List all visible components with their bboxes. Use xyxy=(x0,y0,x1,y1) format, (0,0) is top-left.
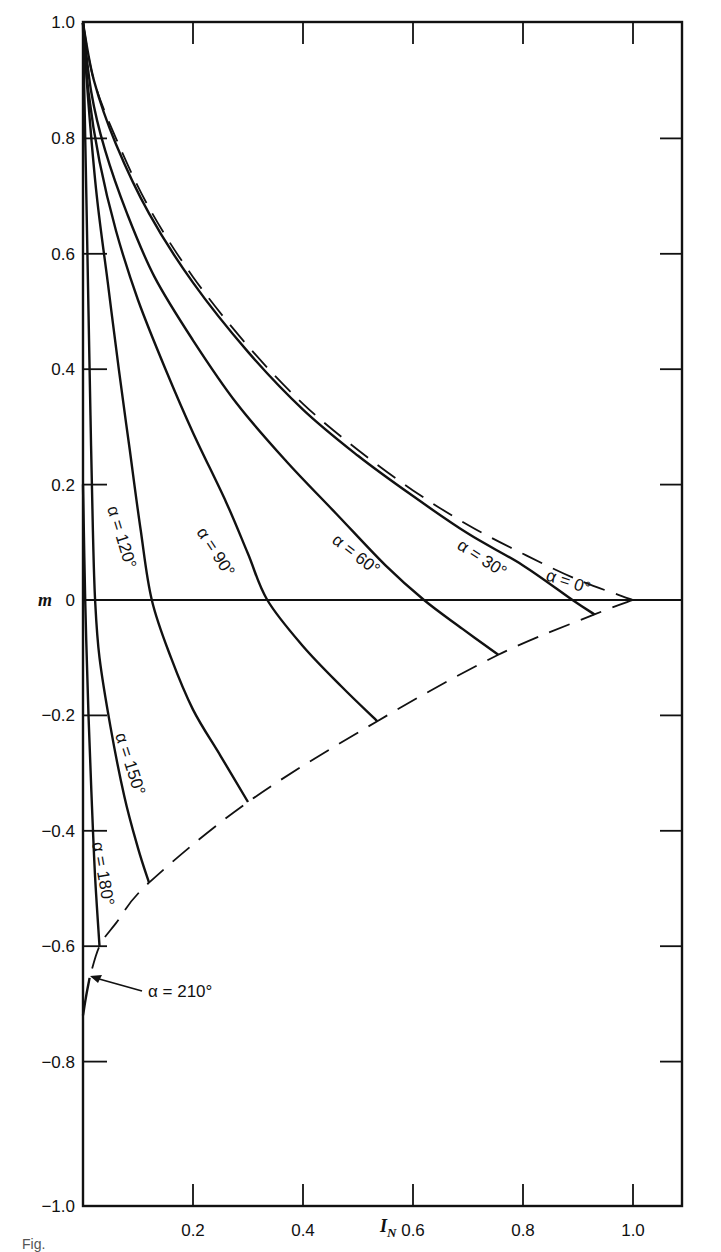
y-tick-label: −0.8 xyxy=(41,1053,75,1072)
x-tick-label: 1.0 xyxy=(621,1221,645,1240)
x-tick-label: 0.4 xyxy=(291,1221,315,1240)
label-alpha-180: α = 180° xyxy=(88,840,118,907)
series-120 xyxy=(83,23,248,802)
y-tick-label: −0.6 xyxy=(41,937,75,956)
y-tick-label: 0.8 xyxy=(51,129,75,148)
axis-ticks: 0.20.40.60.81.01.00.80.60.40.20−0.2−0.4−… xyxy=(41,13,682,1240)
x-tick-label: 0.6 xyxy=(401,1221,425,1240)
y-tick-label: 0 xyxy=(66,591,75,610)
label-alpha-90: α = 90° xyxy=(193,524,239,580)
y-tick-label: −0.2 xyxy=(41,706,75,725)
label-alpha-0: α = 0° xyxy=(544,566,593,598)
x-axis-title-sub: N xyxy=(386,1225,397,1240)
x-tick-label: 0.8 xyxy=(511,1221,535,1240)
series-30 xyxy=(83,23,595,614)
y-tick-label: −0.4 xyxy=(41,822,75,841)
figure-caption: Fig. xyxy=(22,1236,45,1252)
y-tick-label: 0.4 xyxy=(51,360,75,379)
label-alpha-210: α = 210° xyxy=(148,982,212,1001)
y-tick-label: 1.0 xyxy=(51,13,75,32)
data-series xyxy=(83,23,633,1015)
y-tick-label: 0.6 xyxy=(51,245,75,264)
label-alpha-120: α = 120° xyxy=(103,504,140,571)
y-tick-label: 0.2 xyxy=(51,476,75,495)
y-axis-title: m xyxy=(38,590,52,610)
series-90 xyxy=(83,23,377,721)
y-tick-label: −1.0 xyxy=(41,1197,75,1216)
series-0 xyxy=(83,23,633,600)
x-axis-title: IN xyxy=(379,1216,397,1240)
x-tick-label: 0.2 xyxy=(181,1221,205,1240)
